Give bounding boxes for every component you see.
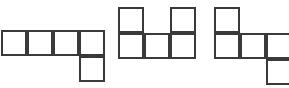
- grid-cell: [266, 33, 289, 59]
- grid-cell: [214, 7, 240, 33]
- grid-cell: [118, 33, 144, 59]
- grid-cell: [240, 33, 266, 59]
- grid-cell: [1, 30, 27, 56]
- grid-cell: [53, 30, 79, 56]
- grid-cell: [144, 33, 170, 59]
- grid-cell: [27, 30, 53, 56]
- grid-cell: [79, 30, 105, 56]
- grid-cell: [266, 59, 289, 85]
- grid-cell: [79, 56, 105, 82]
- diagram-canvas: [0, 0, 289, 88]
- grid-cell: [118, 7, 144, 33]
- grid-cell: [170, 33, 196, 59]
- grid-cell: [170, 7, 196, 33]
- grid-cell: [214, 33, 240, 59]
